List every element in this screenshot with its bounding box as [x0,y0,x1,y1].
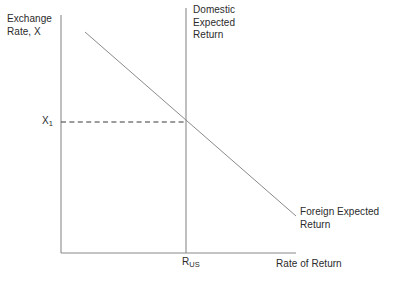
foreign-expected-return-line [85,32,296,216]
x1-base: X [42,115,49,126]
chart-canvas [0,0,393,281]
x1-subscript: 1 [49,119,53,128]
interest-parity-figure: Exchange Rate, X Domestic Expected Retur… [0,0,393,281]
y-axis-title: Exchange Rate, X [7,13,52,38]
foreign-expected-return-label: Foreign Expected Return [300,206,379,231]
rus-subscript: US [189,260,199,269]
x-axis-tick-label-rus: RUS [182,256,200,271]
y-axis-tick-label-x1: X1 [42,115,53,130]
domestic-expected-return-label: Domestic Expected Return [193,4,235,42]
x-axis-title: Rate of Return [276,258,342,271]
